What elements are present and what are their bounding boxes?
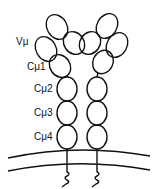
right-vh-domain <box>102 29 132 62</box>
igm-diagram <box>0 0 155 189</box>
right-c2-domain <box>87 77 107 101</box>
left-cyto-tail <box>62 172 69 187</box>
right-vl-domain <box>92 10 122 43</box>
membrane-outer <box>8 150 150 158</box>
left-c4-domain <box>57 125 77 149</box>
left-c2-domain <box>57 77 77 101</box>
label-c-mu-4: Cμ4 <box>34 132 53 142</box>
membrane-inner <box>8 164 150 171</box>
left-vl-domain <box>42 11 72 44</box>
label-c-mu-2: Cμ2 <box>34 84 53 94</box>
left-c3-domain <box>57 101 77 125</box>
right-cyto-tail <box>92 172 99 187</box>
label-c-mu-3: Cμ3 <box>34 108 53 118</box>
left-ch1-domain <box>45 50 75 81</box>
right-ch1-domain <box>89 47 117 77</box>
label-c-mu-1: Cμ1 <box>27 62 46 72</box>
right-c3-domain <box>87 101 107 125</box>
label-v-mu: Vμ <box>16 37 28 47</box>
right-c4-domain <box>87 125 107 149</box>
